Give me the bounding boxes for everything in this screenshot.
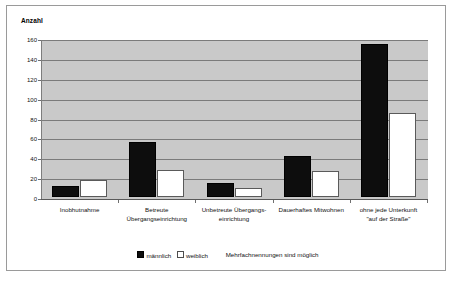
y-axis-tick-label: 0 (34, 196, 37, 202)
y-axis-tick-label: 80 (30, 117, 37, 123)
bar-female (389, 113, 416, 197)
y-axis-tick-label: 140 (27, 57, 37, 63)
legend-note: Mehrfachnennungen sind möglich (226, 251, 319, 258)
y-axis-tick-label: 160 (27, 37, 37, 43)
y-axis-tick-label: 100 (27, 97, 37, 103)
bar-male (361, 44, 388, 197)
bar-female (80, 180, 107, 197)
y-axis-tick-mark (38, 80, 41, 81)
y-axis-tick-mark (38, 60, 41, 61)
bar-male (207, 183, 234, 197)
y-axis-tick-mark (38, 159, 41, 160)
legend-swatch-female-icon (177, 251, 184, 258)
y-axis-tick-mark (38, 179, 41, 180)
legend-entry-female: weiblich (177, 251, 208, 259)
x-axis-tick-mark (427, 200, 428, 203)
chart-figure: Anzahl 020406080100120140160 Inobhutnahm… (6, 5, 446, 271)
y-axis-tick-mark (38, 40, 41, 41)
chart-legend: männlich weiblich Mehrfachnennungen sind… (7, 250, 447, 258)
legend-entry-male: männlich (137, 251, 171, 259)
y-axis-labels: 020406080100120140160 (11, 6, 37, 272)
y-axis-tick-label: 120 (27, 77, 37, 83)
legend-label-male: männlich (146, 251, 171, 258)
legend-label-female: weiblich (186, 251, 208, 258)
gridline (42, 40, 428, 41)
bar-female (157, 170, 184, 197)
bar-female (312, 171, 339, 197)
x-axis-tick-mark (350, 200, 351, 203)
x-axis-category-label: ohne jede Unterkunft "auf der Straße" (342, 205, 435, 223)
bar-male (284, 156, 311, 197)
y-axis-tick-mark (38, 120, 41, 121)
x-axis-tick-mark (118, 200, 119, 203)
x-axis-tick-mark (273, 200, 274, 203)
y-axis-tick-label: 40 (30, 156, 37, 162)
y-axis-tick-mark (38, 139, 41, 140)
y-axis-tick-mark (38, 199, 41, 200)
x-axis-tick-mark (195, 200, 196, 203)
y-axis-tick-label: 20 (30, 176, 37, 182)
y-axis-tick-mark (38, 100, 41, 101)
x-axis-line (41, 199, 428, 200)
legend-swatch-male-icon (137, 251, 144, 258)
bar-female (235, 188, 262, 197)
y-axis-tick-label: 60 (30, 136, 37, 142)
bar-male (52, 186, 79, 197)
bar-male (129, 142, 156, 197)
